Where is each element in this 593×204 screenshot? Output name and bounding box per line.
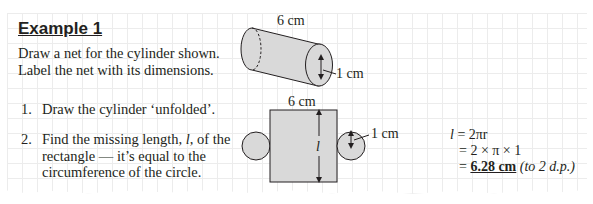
cylinder-radius-label: 1 cm [336, 66, 364, 82]
calc-line-1: l = 2πr [450, 127, 575, 143]
calc-line-3: = 6.28 cm (to 2 d.p.) [450, 159, 575, 175]
answer: 6.28 cm [470, 159, 516, 174]
calculation: l = 2πr = 2 × π × 1 = 6.28 cm (to 2 d.p.… [450, 127, 575, 175]
calc-line-2: = 2 × π × 1 [450, 143, 575, 159]
net-radius-label: 1 cm [371, 126, 399, 142]
net-diagram [242, 110, 369, 182]
cylinder-diagram [241, 28, 336, 86]
rounding-note: (to 2 d.p.) [520, 159, 575, 174]
cylinder-length-label: 6 cm [277, 13, 305, 29]
net-width-label: 6 cm [288, 94, 316, 110]
net-length-label: l [315, 139, 321, 155]
